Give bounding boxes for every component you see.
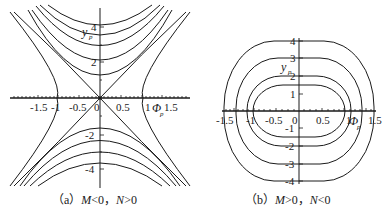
caption-b-cond-n: <0 [318,193,331,207]
x-tick-label: 1 [145,101,151,113]
y-tick-label: -2 [85,129,94,141]
x-tick-label: -1 [246,114,255,126]
caption-b-prefix: （b） [245,193,275,207]
y-tick-label: 1 [290,88,296,100]
caption-b-var-n: N [310,193,318,207]
x-tick-label: 0.5 [316,114,330,126]
y-axis-label-sub: p [287,68,292,76]
y-tick-label: -4 [285,175,295,187]
x-tick-label: 1.5 [368,114,382,126]
y-axis-label: y [280,60,287,74]
caption-a-cond-m: <0， [91,193,116,207]
caption-a: （a）M<0，N>0 [52,190,137,208]
x-tick-label: 0.5 [116,101,130,113]
caption-a-var-m: M [81,193,91,207]
caption-b: （b）M>0，N<0 [245,190,331,208]
caption-a-prefix: （a） [52,193,81,207]
caption-b-var-m: M [275,193,285,207]
y-tick-label: 4 [91,21,97,33]
y-tick-label: -3 [285,158,295,170]
y-tick-label: -1 [285,122,294,134]
x-tick-label: -1.5 [30,101,48,113]
x-tick-label: 0 [94,101,100,113]
y-tick-label: 4 [290,35,296,47]
x-tick-label: 1.5 [164,101,178,113]
y-tick-label: -4 [85,163,95,175]
chart-a-axes: -1.5 -1 -0.5 0 0.5 1 1.5 4 2 -2 -4 y p Φ… [10,8,190,188]
caption-a-var-n: N [116,193,124,207]
y-axis-label-sub: p [88,33,93,41]
x-tick-label: -1.5 [216,114,234,126]
y-axis-label: y [81,25,88,39]
y-tick-label: -2 [285,140,294,152]
caption-b-cond-m: >0， [285,193,310,207]
y-tick-label: 3 [290,52,296,64]
x-axis-label-sub: p [356,123,361,131]
caption-a-cond-n: >0 [124,193,137,207]
x-tick-label: -0.5 [265,114,283,126]
x-tick-label: -0.5 [69,101,87,113]
x-tick-label: -1 [51,101,60,113]
x-axis-label-sub: p [159,110,164,118]
y-tick-label: 2 [91,56,97,68]
